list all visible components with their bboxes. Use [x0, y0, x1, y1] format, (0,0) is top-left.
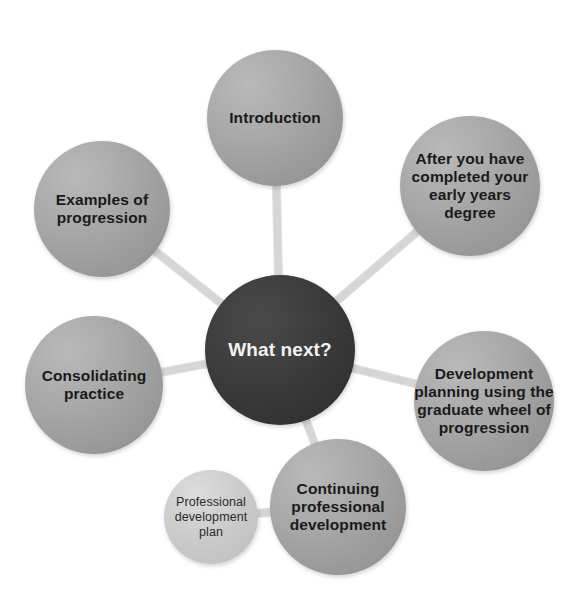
node-pdp: Professional development plan — [164, 470, 258, 564]
node-label-development-planning: Development planning using the graduate … — [414, 365, 554, 437]
node-what-next: What next? — [205, 275, 355, 425]
node-development-planning: Development planning using the graduate … — [414, 331, 554, 471]
node-label-examples-progression: Examples of progression — [56, 191, 148, 227]
node-label-what-next: What next? — [228, 339, 331, 361]
node-consolidating-practice: Consolidating practice — [25, 316, 163, 454]
node-label-after-degree: After you have completed your early year… — [412, 150, 529, 222]
node-cpd: Continuing professional development — [270, 439, 406, 575]
node-label-cpd: Continuing professional development — [290, 480, 387, 534]
node-after-degree: After you have completed your early year… — [400, 116, 540, 256]
node-introduction: Introduction — [207, 50, 343, 186]
node-examples-progression: Examples of progression — [34, 141, 170, 277]
node-label-pdp: Professional development plan — [175, 495, 248, 540]
node-label-consolidating-practice: Consolidating practice — [42, 367, 147, 403]
node-label-introduction: Introduction — [229, 109, 321, 127]
